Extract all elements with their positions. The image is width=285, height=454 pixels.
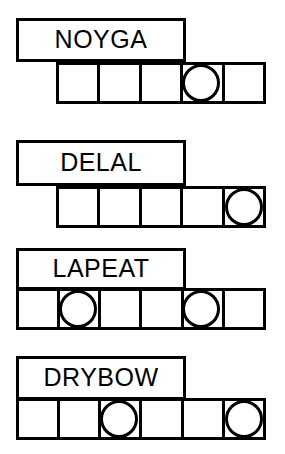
scrambled-word-text: LAPEAT [52,256,149,281]
answer-cell[interactable] [59,65,100,101]
answer-cell[interactable] [183,65,224,101]
answer-cell[interactable] [19,291,60,327]
answer-cell[interactable] [59,189,100,225]
word-label-box: DELAL [16,140,186,186]
answer-cell[interactable] [184,401,225,437]
answer-grid [16,398,266,440]
scrambled-word-text: NOYGA [55,27,148,52]
answer-cell[interactable] [142,291,183,327]
answer-cell[interactable] [60,291,101,327]
key-letter-circle [182,64,220,102]
answer-cell[interactable] [142,65,183,101]
answer-grid [16,288,266,330]
answer-cell[interactable] [142,189,183,225]
answer-cell[interactable] [225,401,263,437]
answer-cell[interactable] [100,65,141,101]
key-letter-circle [182,290,220,328]
word-label-box: DRYBOW [16,356,186,400]
answer-grid [56,62,266,104]
word-label-box: LAPEAT [16,248,186,290]
answer-cell[interactable] [101,291,142,327]
key-letter-circle [100,400,138,438]
answer-cell[interactable] [101,401,142,437]
scrambled-word-text: DRYBOW [43,365,158,390]
key-letter-circle [225,400,263,438]
answer-cell[interactable] [100,189,141,225]
word-label-box: NOYGA [16,18,186,62]
answer-cell[interactable] [19,401,60,437]
scrambled-word-text: DELAL [60,150,142,175]
answer-grid [56,186,266,228]
answer-cell[interactable] [60,401,101,437]
key-letter-circle [225,188,263,226]
answer-cell[interactable] [225,291,263,327]
answer-cell[interactable] [184,291,225,327]
answer-cell[interactable] [183,189,224,225]
answer-cell[interactable] [225,65,263,101]
puzzle-sheet: NOYGADELALLAPEATDRYBOW [0,0,285,454]
answer-cell[interactable] [225,189,263,225]
key-letter-circle [59,290,97,328]
answer-cell[interactable] [142,401,183,437]
